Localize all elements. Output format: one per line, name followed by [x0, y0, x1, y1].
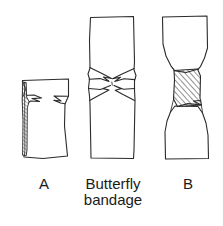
panel-middle-drawing [88, 17, 136, 159]
panel-a-skin-outline [23, 79, 69, 159]
butterfly-waist [112, 82, 113, 85]
panel-middle-caption-line1: Butterfly [85, 175, 140, 192]
panel-middle-caption: Butterflybandage [75, 176, 151, 208]
panel-b-drawing [163, 16, 209, 159]
panel-b-caption: B [160, 176, 216, 192]
panel-middle-caption-line2: bandage [84, 191, 142, 208]
panel-a-drawing [22, 79, 68, 159]
panel-b-skin-lower [165, 106, 209, 159]
panel-b-skin-upper [163, 16, 208, 72]
butterfly-bandage-outline [88, 17, 136, 159]
illustration-figure: A Butterflybandage B [0, 0, 223, 226]
panel-a-caption: A [16, 176, 72, 192]
